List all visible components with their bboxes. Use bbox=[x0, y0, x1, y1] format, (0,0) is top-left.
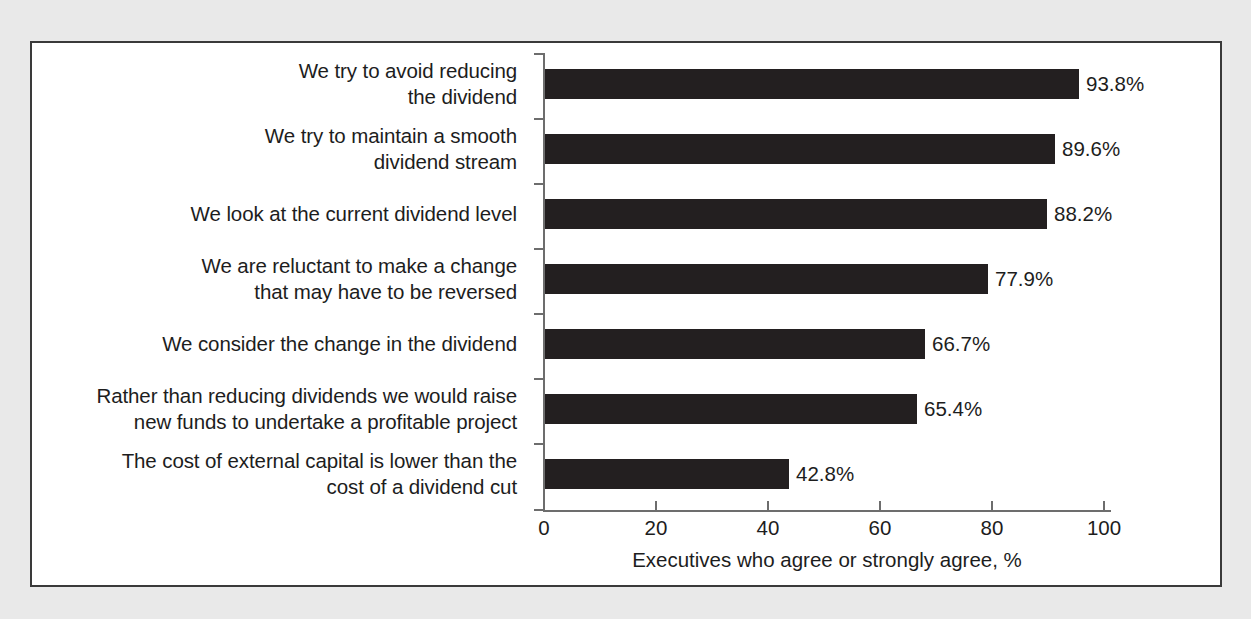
x-axis-tick bbox=[991, 501, 993, 512]
figure-frame: We try to avoid reducing the dividend 93… bbox=[30, 41, 1222, 587]
bar-chart: We try to avoid reducing the dividend 93… bbox=[32, 43, 1220, 585]
y-axis-tick bbox=[534, 53, 545, 55]
bar[interactable] bbox=[545, 264, 988, 294]
bar-value-label: 66.7% bbox=[925, 332, 990, 356]
y-axis-tick bbox=[534, 183, 545, 185]
bar-value-label: 77.9% bbox=[988, 267, 1053, 291]
x-axis-line bbox=[543, 510, 1111, 512]
category-label: We try to avoid reducing the dividend bbox=[32, 58, 529, 110]
x-axis-tick-label: 0 bbox=[538, 516, 549, 540]
bar[interactable] bbox=[545, 459, 789, 489]
bar-track: 89.6% bbox=[545, 134, 1220, 164]
bar-track: 65.4% bbox=[545, 394, 1220, 424]
bar-value-label: 93.8% bbox=[1079, 72, 1144, 96]
bar-value-label: 42.8% bbox=[789, 462, 854, 486]
x-axis-tick-label: 40 bbox=[757, 516, 780, 540]
x-axis-tick-label: 80 bbox=[981, 516, 1004, 540]
bar[interactable] bbox=[545, 329, 925, 359]
bar[interactable] bbox=[545, 199, 1047, 229]
bar-value-label: 89.6% bbox=[1055, 137, 1120, 161]
x-axis-tick bbox=[879, 501, 881, 512]
category-label: Rather than reducing dividends we would … bbox=[32, 383, 529, 435]
category-label: We consider the change in the dividend bbox=[32, 331, 529, 357]
chart-row: We are reluctant to make a change that m… bbox=[32, 248, 1220, 310]
x-axis-tick-label: 60 bbox=[869, 516, 892, 540]
category-label: The cost of external capital is lower th… bbox=[32, 448, 529, 500]
chart-row: We consider the change in the dividend 6… bbox=[32, 313, 1220, 375]
bar-track: 88.2% bbox=[545, 199, 1220, 229]
bar-track: 93.8% bbox=[545, 69, 1220, 99]
bar[interactable] bbox=[545, 69, 1079, 99]
bar-track: 42.8% bbox=[545, 459, 1220, 489]
category-label: We look at the current dividend level bbox=[32, 201, 529, 227]
bar-value-label: 88.2% bbox=[1047, 202, 1112, 226]
x-axis-tick bbox=[767, 501, 769, 512]
bar[interactable] bbox=[545, 134, 1055, 164]
y-axis-tick bbox=[534, 378, 545, 380]
x-axis-tick bbox=[1103, 501, 1105, 512]
chart-row: We try to maintain a smooth dividend str… bbox=[32, 118, 1220, 180]
x-axis-title: Executives who agree or strongly agree, … bbox=[543, 548, 1111, 572]
category-label: We try to maintain a smooth dividend str… bbox=[32, 123, 529, 175]
chart-row: We look at the current dividend level 88… bbox=[32, 183, 1220, 245]
chart-row: Rather than reducing dividends we would … bbox=[32, 378, 1220, 440]
chart-row: We try to avoid reducing the dividend 93… bbox=[32, 53, 1220, 115]
y-axis-tick bbox=[534, 118, 545, 120]
y-axis-tick bbox=[534, 248, 545, 250]
x-axis-tick bbox=[655, 501, 657, 512]
chart-row: The cost of external capital is lower th… bbox=[32, 443, 1220, 505]
x-axis-tick bbox=[543, 501, 545, 512]
bar-track: 66.7% bbox=[545, 329, 1220, 359]
y-axis-tick bbox=[534, 313, 545, 315]
x-axis-tick-label: 100 bbox=[1087, 516, 1121, 540]
category-label: We are reluctant to make a change that m… bbox=[32, 253, 529, 305]
bar[interactable] bbox=[545, 394, 917, 424]
bar-track: 77.9% bbox=[545, 264, 1220, 294]
bar-value-label: 65.4% bbox=[917, 397, 982, 421]
x-axis-tick-label: 20 bbox=[645, 516, 668, 540]
y-axis-tick bbox=[534, 443, 545, 445]
